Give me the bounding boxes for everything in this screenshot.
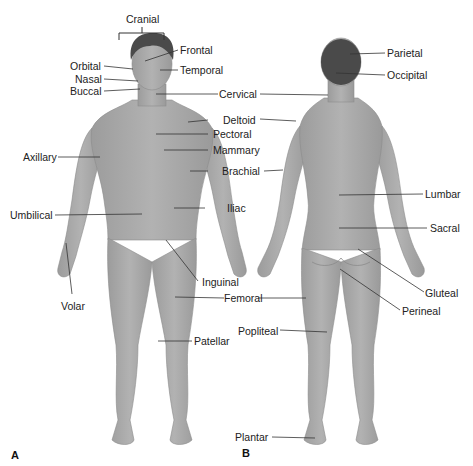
label-parietal: Parietal [387, 47, 423, 59]
label-cranial: Cranial [126, 13, 159, 25]
label-umbilical: Umbilical [10, 209, 53, 221]
label-perineal: Perineal [402, 305, 441, 317]
label-pectoral: Pectoral [213, 128, 252, 140]
label-mammary: Mammary [213, 144, 260, 156]
label-cervical: Cervical [219, 88, 257, 100]
label-deltoid: Deltoid [223, 114, 256, 126]
label-frontal: Frontal [180, 44, 213, 56]
label-nasal: Nasal [75, 73, 102, 85]
label-sacral: Sacral [430, 222, 460, 234]
label-occipital: Occipital [387, 69, 427, 81]
label-popliteal: Popliteal [238, 325, 278, 337]
label-axillary: Axillary [23, 151, 57, 163]
label-patellar: Patellar [194, 335, 230, 347]
label-inguinal: Inguinal [202, 276, 239, 288]
label-buccal: Buccal [70, 85, 102, 97]
label-brachial: Brachial [222, 165, 260, 177]
label-gluteal: Gluteal [425, 287, 458, 299]
label-iliac: Iliac [227, 202, 246, 214]
label-orbital: Orbital [70, 60, 101, 72]
label-femoral: Femoral [224, 292, 263, 304]
panel-label-a: A [11, 449, 19, 461]
label-volar: Volar [61, 300, 85, 312]
anatomical-regions-diagram: Cranial Frontal Orbital Temporal Nasal B… [0, 0, 473, 466]
label-plantar: Plantar [235, 431, 268, 443]
label-lumbar: Lumbar [425, 188, 461, 200]
panel-label-b: B [242, 447, 250, 459]
posterior-body-figure [258, 38, 425, 445]
posterior-hair [321, 39, 361, 85]
label-temporal: Temporal [180, 64, 223, 76]
